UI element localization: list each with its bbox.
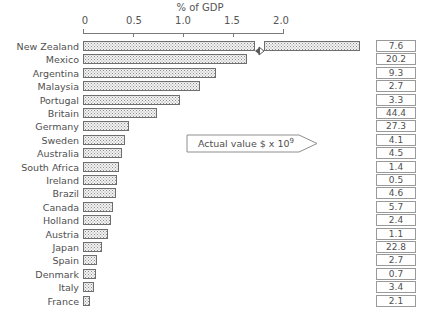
category-label: Mexico bbox=[0, 53, 79, 66]
bar bbox=[83, 148, 122, 158]
chart-row: New Zealand7.6 bbox=[0, 40, 424, 53]
category-label: Germany bbox=[0, 120, 79, 133]
x-axis-left-cap bbox=[83, 29, 84, 34]
axis-break-arrow-icon bbox=[255, 41, 262, 51]
category-label: Sweden bbox=[0, 134, 79, 147]
actual-value-box: 1.4 bbox=[376, 161, 416, 173]
actual-value-box: 7.6 bbox=[376, 40, 416, 52]
chart-row: Ireland0.5 bbox=[0, 174, 424, 187]
chart-row: Portugal3.3 bbox=[0, 94, 424, 107]
actual-value-box: 2.4 bbox=[376, 214, 416, 226]
x-axis-right-cap bbox=[283, 29, 284, 34]
actual-value-box: 44.4 bbox=[376, 107, 416, 119]
bar bbox=[83, 108, 157, 118]
chart-row: Italy3.4 bbox=[0, 281, 424, 294]
chart-row: Holland2.4 bbox=[0, 214, 424, 227]
actual-value-box: 4.5 bbox=[376, 147, 416, 159]
category-label: Japan bbox=[0, 241, 79, 254]
bar bbox=[83, 215, 111, 225]
x-tick-mark-1 bbox=[133, 33, 134, 37]
bar-chart: % of GDP 0 0.5 1.0 1.5 2.0 New Zealand7.… bbox=[0, 0, 424, 326]
callout-label-text: Actual value $ x 10 bbox=[198, 138, 290, 149]
category-label: South Africa bbox=[0, 161, 79, 174]
callout-exponent: 9 bbox=[290, 137, 294, 145]
bar bbox=[83, 135, 125, 145]
actual-value-box: 3.4 bbox=[376, 281, 416, 293]
bar bbox=[83, 202, 113, 212]
x-tick-label-4: 2.0 bbox=[266, 15, 296, 26]
category-label: Portugal bbox=[0, 94, 79, 107]
chart-row: Canada5.7 bbox=[0, 201, 424, 214]
chart-row: Brazil4.6 bbox=[0, 187, 424, 200]
category-label: Spain bbox=[0, 254, 79, 267]
actual-value-box: 9.3 bbox=[376, 67, 416, 79]
actual-value-box: 4.6 bbox=[376, 187, 416, 199]
bar-segment-continued bbox=[264, 41, 360, 51]
chart-row: Japan22.8 bbox=[0, 241, 424, 254]
chart-row: Britain44.4 bbox=[0, 107, 424, 120]
actual-value-box: 2.7 bbox=[376, 254, 416, 266]
chart-row: Denmark0.7 bbox=[0, 268, 424, 281]
category-label: Britain bbox=[0, 107, 79, 120]
chart-row: Spain2.7 bbox=[0, 254, 424, 267]
bar bbox=[83, 282, 94, 292]
actual-value-box: 1.1 bbox=[376, 228, 416, 240]
actual-value-box: 22.8 bbox=[376, 241, 416, 253]
x-axis-title: % of GDP bbox=[140, 2, 260, 13]
category-label: Canada bbox=[0, 201, 79, 214]
actual-value-box: 4.1 bbox=[376, 134, 416, 146]
bar bbox=[83, 296, 90, 306]
x-tick-label-0: 0 bbox=[70, 15, 100, 26]
category-label: Denmark bbox=[0, 268, 79, 281]
chart-row: France2.1 bbox=[0, 295, 424, 308]
x-tick-label-3: 1.5 bbox=[217, 15, 247, 26]
bar bbox=[83, 54, 247, 64]
bar bbox=[83, 242, 102, 252]
bar bbox=[83, 269, 96, 279]
bar bbox=[83, 81, 200, 91]
bar bbox=[83, 121, 129, 131]
chart-row: Malaysia2.7 bbox=[0, 80, 424, 93]
category-label: Austria bbox=[0, 228, 79, 241]
x-tick-mark-3 bbox=[233, 33, 234, 37]
actual-value-box: 27.3 bbox=[376, 120, 416, 132]
actual-value-box: 5.7 bbox=[376, 201, 416, 213]
category-label: Australia bbox=[0, 147, 79, 160]
actual-value-box: 3.3 bbox=[376, 94, 416, 106]
actual-value-box: 2.7 bbox=[376, 80, 416, 92]
chart-row: Austria1.1 bbox=[0, 228, 424, 241]
bar bbox=[83, 95, 180, 105]
bar-segment bbox=[83, 41, 255, 51]
bar bbox=[83, 162, 119, 172]
category-label: New Zealand bbox=[0, 40, 79, 53]
category-label: Holland bbox=[0, 214, 79, 227]
category-label: Argentina bbox=[0, 67, 79, 80]
category-label: France bbox=[0, 295, 79, 308]
bar bbox=[83, 188, 116, 198]
actual-value-box: 20.2 bbox=[376, 53, 416, 65]
x-tick-label-2: 1.0 bbox=[168, 15, 198, 26]
chart-row: Mexico20.2 bbox=[0, 53, 424, 66]
bar bbox=[83, 175, 117, 185]
category-label: Malaysia bbox=[0, 80, 79, 93]
actual-value-box: 2.1 bbox=[376, 295, 416, 307]
actual-value-box: 0.7 bbox=[376, 268, 416, 280]
category-label: Ireland bbox=[0, 174, 79, 187]
x-tick-label-1: 0.5 bbox=[119, 15, 149, 26]
actual-value-box: 0.5 bbox=[376, 174, 416, 186]
x-tick-mark-2 bbox=[183, 33, 184, 37]
callout-label: Actual value $ x 109 bbox=[198, 137, 294, 149]
category-label: Brazil bbox=[0, 187, 79, 200]
category-label: Italy bbox=[0, 281, 79, 294]
bar bbox=[83, 68, 216, 78]
bar bbox=[83, 229, 108, 239]
chart-row: Argentina9.3 bbox=[0, 67, 424, 80]
actual-value-callout: Actual value $ x 109 bbox=[186, 132, 319, 155]
bar bbox=[83, 255, 97, 265]
chart-row: South Africa1.4 bbox=[0, 161, 424, 174]
